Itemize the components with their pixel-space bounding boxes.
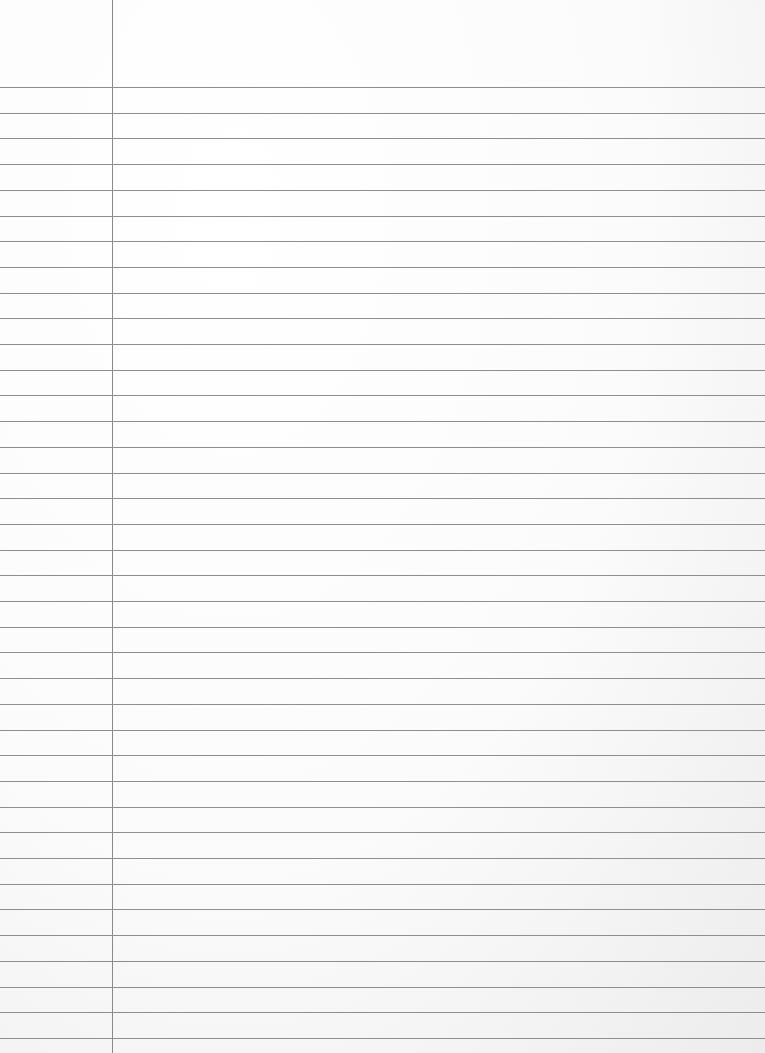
ruled-line <box>0 550 765 551</box>
ruled-line <box>0 344 765 345</box>
ruled-line <box>0 884 765 885</box>
ruled-line <box>0 370 765 371</box>
ruled-line <box>0 781 765 782</box>
ruled-line <box>0 755 765 756</box>
ruled-line <box>0 395 765 396</box>
ruled-line <box>0 87 765 88</box>
ruled-line <box>0 113 765 114</box>
ruled-line <box>0 318 765 319</box>
ruled-line <box>0 987 765 988</box>
notebook-page <box>0 0 765 1053</box>
ruled-line <box>0 267 765 268</box>
ruled-line <box>0 704 765 705</box>
ruled-line <box>0 730 765 731</box>
ruled-line <box>0 858 765 859</box>
ruled-line <box>0 498 765 499</box>
ruled-line <box>0 216 765 217</box>
ruled-line <box>0 807 765 808</box>
ruled-line <box>0 961 765 962</box>
ruled-line <box>0 241 765 242</box>
ruled-line <box>0 909 765 910</box>
ruled-line <box>0 524 765 525</box>
ruled-line <box>0 627 765 628</box>
ruled-line <box>0 678 765 679</box>
ruled-line <box>0 473 765 474</box>
ruled-line <box>0 1012 765 1013</box>
ruled-line <box>0 575 765 576</box>
ruled-line <box>0 293 765 294</box>
ruled-line <box>0 138 765 139</box>
ruled-line <box>0 601 765 602</box>
margin-line <box>112 0 113 1053</box>
ruled-line <box>0 164 765 165</box>
ruled-line <box>0 652 765 653</box>
ruled-line <box>0 447 765 448</box>
ruled-line <box>0 1038 765 1039</box>
ruled-line <box>0 421 765 422</box>
ruled-line <box>0 935 765 936</box>
ruled-line <box>0 832 765 833</box>
ruled-line <box>0 190 765 191</box>
